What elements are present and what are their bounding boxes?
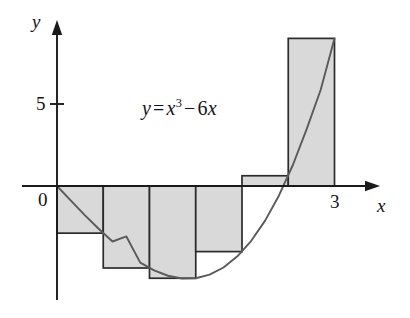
equation-annotation: y=x3−6x — [142, 98, 217, 118]
riemann-rectangle — [288, 38, 334, 186]
riemann-rectangle — [242, 176, 288, 186]
equation-lhs: y — [142, 97, 151, 119]
y-axis-label: y — [32, 12, 40, 31]
x-axis-label: x — [377, 196, 385, 215]
equation-minus: − — [182, 97, 197, 119]
equation-variable-1: x — [167, 97, 176, 119]
x-axis-tick-label-3: 3 — [330, 192, 340, 211]
riemann-rectangle — [150, 186, 196, 278]
y-axis-arrowhead — [52, 20, 62, 35]
riemann-sum-figure: y x 5 0 3 y=x3−6x — [0, 0, 410, 318]
equation-variable-2: x — [208, 97, 217, 119]
x-axis-arrowhead — [365, 181, 380, 191]
riemann-rectangle — [103, 186, 149, 268]
y-axis-tick-label-5: 5 — [36, 94, 46, 113]
riemann-rectangle — [196, 186, 242, 252]
riemann-rectangles — [57, 38, 335, 278]
equation-equals: = — [151, 97, 166, 119]
equation-coefficient: 6 — [198, 97, 208, 119]
plot-canvas — [0, 0, 410, 318]
origin-label: 0 — [38, 190, 48, 209]
